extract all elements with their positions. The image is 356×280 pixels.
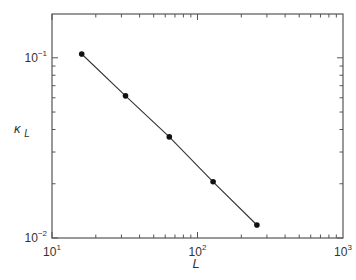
data-point <box>123 93 129 99</box>
y-axis-label: κ L <box>14 121 30 139</box>
data-point <box>254 222 260 228</box>
data-point <box>210 179 216 185</box>
x-tick-label: 103 <box>334 243 352 259</box>
minor-ticks <box>52 14 343 238</box>
plot-frame <box>52 14 343 238</box>
y-axis-label-sub: L <box>24 128 30 139</box>
y-tick-labels: 10−210−1 <box>25 49 48 245</box>
major-ticks <box>52 14 343 238</box>
data-point <box>166 134 172 140</box>
data-point <box>79 51 85 57</box>
y-axis-label-main: κ <box>14 121 22 136</box>
x-tick-label: 101 <box>43 243 61 259</box>
log-log-chart: 101102103 10−210−1 L κ L <box>0 0 356 280</box>
y-tick-label: 10−1 <box>25 49 48 65</box>
y-tick-label: 10−2 <box>25 229 48 245</box>
x-axis-label: L <box>192 256 199 271</box>
